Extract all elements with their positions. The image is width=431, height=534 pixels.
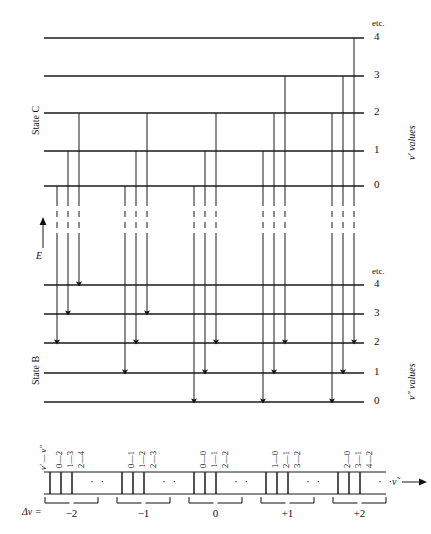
upper-quantum-label: v′ values xyxy=(406,125,417,160)
lower-level-number-0: 0 xyxy=(374,394,380,406)
upper-etc-label: etc. xyxy=(372,18,385,28)
spectrum-continuation-dots: · · xyxy=(234,475,250,487)
spectrum-continuation-dots: · · xyxy=(162,475,178,487)
spectrum-group-delta-label: −1 xyxy=(138,507,150,519)
spectrum-group-delta-label: +2 xyxy=(354,507,366,519)
upper-level-number-3: 3 xyxy=(374,68,380,80)
wavenumber-axis-label: ν̃ xyxy=(392,476,396,487)
spectrum-band-label: 0—0 xyxy=(198,451,208,468)
spectrum-band-label: 0—2 xyxy=(54,451,64,468)
spectrum-delta-axis-label: Δv = xyxy=(22,506,42,517)
spectrum-band-label: 2—2 xyxy=(220,451,230,468)
figure-canvas: 4321043210etc.etc.v′ valuesv″ valuesStat… xyxy=(0,0,431,534)
upper-level-number-0: 0 xyxy=(374,178,380,190)
spectrum-group-delta-label: +1 xyxy=(282,507,294,519)
lower-level-number-4: 4 xyxy=(374,277,380,289)
spectrum-group-brace-+2 xyxy=(333,497,386,503)
spectrum-band-label: 2—1 xyxy=(281,451,291,468)
spectrum-band-label: 1—3 xyxy=(65,451,75,468)
spectrum-group-brace-+1 xyxy=(261,497,314,503)
spectrum-group-brace-−1 xyxy=(117,497,170,503)
spectrum-band-label: 2—4 xyxy=(76,451,86,468)
spectrum-band-label: 2—0 xyxy=(342,451,352,468)
spectrum-band-label: 4—2 xyxy=(364,451,374,468)
upper-state-name: State C xyxy=(30,106,41,135)
lower-level-number-2: 2 xyxy=(374,335,380,347)
upper-level-number-4: 4 xyxy=(374,30,380,42)
lower-level-number-1: 1 xyxy=(374,365,380,377)
spectrum-band-label: 0—1 xyxy=(126,451,136,468)
spectrum-band-label: 1—0 xyxy=(270,451,280,468)
lower-state-name: State B xyxy=(30,356,41,385)
lower-quantum-label: v″ values xyxy=(406,363,417,400)
spectrum-group-delta-label: −2 xyxy=(66,507,78,519)
spectrum-row-label: v′ — v″ xyxy=(38,445,48,470)
upper-level-number-2: 2 xyxy=(374,105,380,117)
lower-etc-label: etc. xyxy=(372,266,385,276)
spectrum-group-brace-−2 xyxy=(45,497,98,503)
energy-axis-arrowhead xyxy=(40,217,47,225)
spectrum-band-label: 1—2 xyxy=(137,451,147,468)
energy-axis-label: E xyxy=(36,250,42,261)
lower-level-number-3: 3 xyxy=(374,306,380,318)
spectrum-continuation-dots: · · xyxy=(90,475,106,487)
spectrum-band-label: 3—2 xyxy=(292,451,302,468)
wavenumber-axis-arrowhead xyxy=(419,478,427,485)
spectrum-group-delta-label: 0 xyxy=(213,507,219,519)
spectrum-group-brace-0 xyxy=(189,497,242,503)
spectrum-band-label: 1—1 xyxy=(209,451,219,468)
spectrum-continuation-dots: · · xyxy=(306,475,322,487)
spectrum-band-label: 2—3 xyxy=(148,451,158,468)
upper-level-number-1: 1 xyxy=(374,143,380,155)
spectrum-band-label: 3—1 xyxy=(353,451,363,468)
